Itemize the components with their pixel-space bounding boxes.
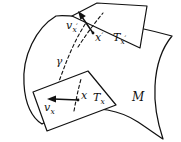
tangent-vector-lower-shaft bbox=[53, 99, 78, 100]
point-x-prime-dot bbox=[92, 32, 95, 35]
point-x-dot bbox=[77, 99, 80, 102]
label-vector-upper-prime: ′ bbox=[76, 22, 78, 31]
label-vector-upper: v x ′ bbox=[66, 19, 78, 34]
figure-canvas: M T x T x ′ x x ′ v x v x ′ bbox=[0, 0, 181, 142]
label-point-x-prime: x ′ bbox=[95, 31, 104, 45]
label-manifold-M: M bbox=[131, 90, 145, 104]
label-point-x-prime-mark: ′ bbox=[102, 31, 104, 40]
manifold-tangent-space-figure: M T x T x ′ x x ′ v x v x ′ bbox=[0, 0, 181, 142]
label-geodesic-gamma: γ bbox=[56, 55, 63, 67]
label-point-x: x bbox=[81, 89, 88, 102]
label-tangent-space-upper: T x ′ bbox=[113, 31, 127, 46]
tangent-plane-upper bbox=[72, 3, 147, 48]
label-tangent-upper-prime: ′ bbox=[125, 34, 127, 43]
